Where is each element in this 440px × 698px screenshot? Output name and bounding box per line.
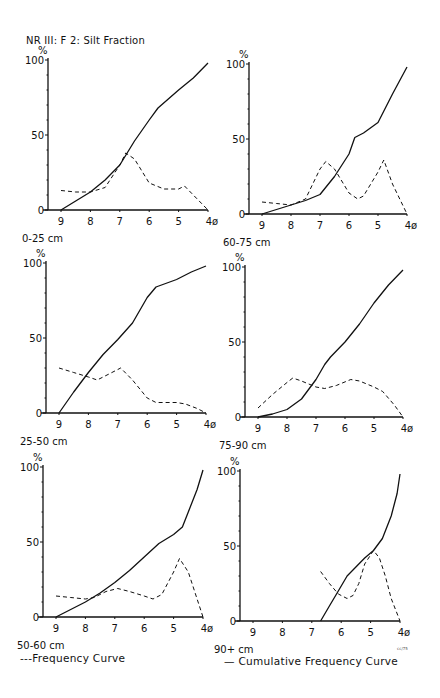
- legend-cumulative-curve: — Cumulative Frequency Curve: [224, 655, 398, 667]
- cumulative-frequency-curve: [321, 474, 400, 621]
- depth-label: 90+ cm: [214, 644, 254, 655]
- x-tick-label: 5: [367, 627, 373, 638]
- y-tick-label: 50: [223, 541, 236, 552]
- x-tick-label: 8: [279, 627, 285, 638]
- corner-mark: cc/75: [397, 646, 408, 651]
- chart-90plus-cm: 050100%987654ø90+ cm: [0, 0, 440, 698]
- legend-frequency-curve: ---Frequency Curve: [20, 652, 125, 664]
- y-axis-unit: %: [230, 456, 240, 467]
- x-tick-label: 7: [309, 627, 315, 638]
- y-tick-label: 100: [217, 466, 236, 477]
- x-tick-label: 9: [250, 627, 256, 638]
- x-tick-label: 6: [338, 627, 344, 638]
- y-tick-label: 0: [230, 616, 236, 627]
- frequency-curve: [321, 551, 400, 622]
- x-tick-label: 4ø: [398, 627, 410, 638]
